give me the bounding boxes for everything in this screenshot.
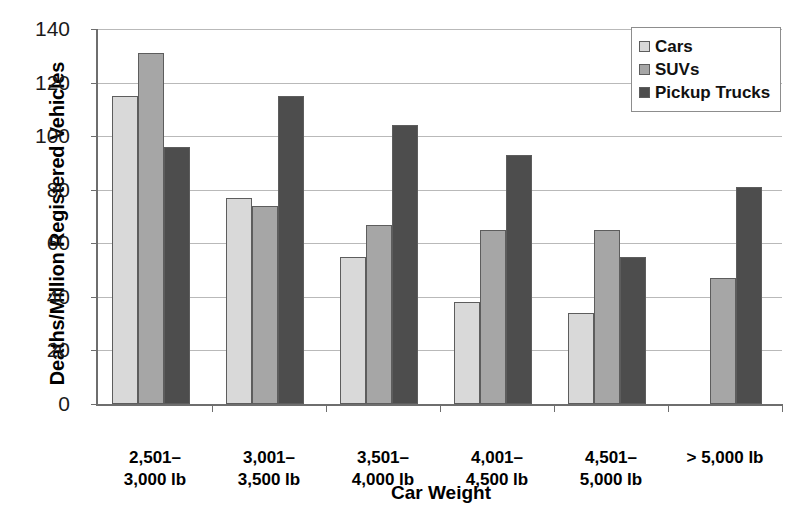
x-tick-mark bbox=[782, 404, 783, 412]
x-category-label: 4,001–4,500 lb bbox=[440, 447, 554, 492]
legend-label: SUVs bbox=[655, 60, 699, 80]
x-category-label: 4,501–5,000 lb bbox=[554, 447, 668, 492]
bar bbox=[594, 230, 620, 404]
bar-chart: Deaths/Million Registered Vehicles Car W… bbox=[0, 0, 801, 521]
y-tick-label: 120 bbox=[10, 72, 70, 93]
bar bbox=[252, 206, 278, 404]
bar bbox=[736, 187, 762, 404]
x-category-label: 2,501–3,000 lb bbox=[98, 447, 212, 492]
y-tick-label: 100 bbox=[10, 125, 70, 146]
gridline bbox=[98, 297, 782, 298]
x-tick-mark bbox=[668, 404, 669, 412]
y-tick-label: 40 bbox=[10, 286, 70, 307]
y-tick-mark bbox=[91, 190, 98, 191]
y-tick-mark bbox=[91, 350, 98, 351]
bar bbox=[506, 155, 532, 404]
legend-swatch-icon bbox=[639, 87, 650, 98]
legend-label: Cars bbox=[655, 37, 693, 57]
legend-swatch-icon bbox=[639, 64, 650, 75]
gridline bbox=[98, 136, 782, 137]
x-category-label: 3,501–4,000 lb bbox=[326, 447, 440, 492]
bar bbox=[164, 147, 190, 404]
x-tick-mark bbox=[440, 404, 441, 412]
chart-legend: CarsSUVsPickup Trucks bbox=[631, 27, 781, 112]
y-tick-mark bbox=[91, 297, 98, 298]
bar bbox=[454, 302, 480, 404]
bar bbox=[112, 96, 138, 404]
bar bbox=[226, 198, 252, 404]
bar bbox=[392, 125, 418, 404]
y-tick-label: 20 bbox=[10, 339, 70, 360]
x-tick-mark bbox=[212, 404, 213, 412]
bar bbox=[340, 257, 366, 404]
x-tick-mark bbox=[554, 404, 555, 412]
y-tick-label: 0 bbox=[10, 393, 70, 414]
y-tick-mark bbox=[91, 404, 98, 405]
y-tick-label: 60 bbox=[10, 232, 70, 253]
bar bbox=[278, 96, 304, 404]
gridline bbox=[98, 243, 782, 244]
x-category-label: 3,001–3,500 lb bbox=[212, 447, 326, 492]
bar bbox=[480, 230, 506, 404]
bar bbox=[366, 225, 392, 404]
x-category-label: > 5,000 lb bbox=[668, 447, 782, 469]
y-tick-label: 80 bbox=[10, 179, 70, 200]
legend-item: Cars bbox=[639, 35, 772, 58]
legend-item: Pickup Trucks bbox=[639, 81, 772, 104]
y-tick-mark bbox=[91, 29, 98, 30]
legend-label: Pickup Trucks bbox=[655, 83, 770, 103]
y-tick-mark bbox=[91, 136, 98, 137]
bar bbox=[620, 257, 646, 404]
gridline bbox=[98, 190, 782, 191]
y-tick-label: 140 bbox=[10, 18, 70, 39]
bar bbox=[710, 278, 736, 404]
gridline bbox=[98, 350, 782, 351]
bar bbox=[568, 313, 594, 404]
y-tick-mark bbox=[91, 243, 98, 244]
y-tick-mark bbox=[91, 83, 98, 84]
legend-item: SUVs bbox=[639, 58, 772, 81]
legend-swatch-icon bbox=[639, 41, 650, 52]
x-tick-mark bbox=[326, 404, 327, 412]
bar bbox=[138, 53, 164, 404]
